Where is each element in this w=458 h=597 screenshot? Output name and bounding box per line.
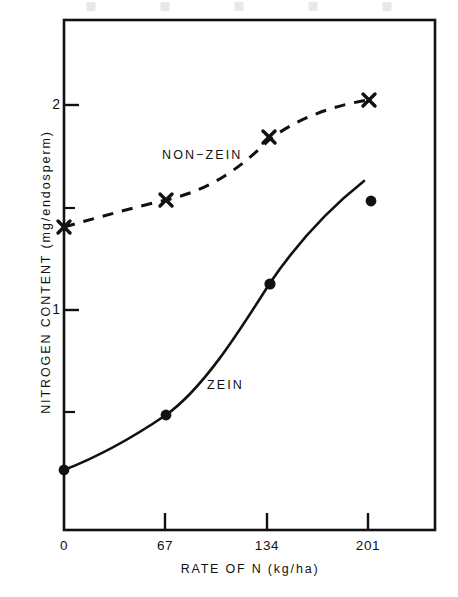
zein-markers: [59, 196, 377, 476]
figure: NITROGEN CONTENT (mg/endosperm) 2 1 0 67…: [0, 0, 458, 597]
plot-canvas: [0, 0, 458, 597]
zein-marker-67: [161, 410, 172, 421]
non-zein-trend-line: [64, 100, 369, 227]
zein-trend-line: [64, 181, 364, 470]
x-major-ticks: [165, 513, 368, 530]
zein-marker-134: [264, 278, 275, 289]
axes-frame: [64, 20, 435, 530]
zein-marker-201: [366, 196, 377, 207]
zein-marker-0: [59, 465, 70, 476]
